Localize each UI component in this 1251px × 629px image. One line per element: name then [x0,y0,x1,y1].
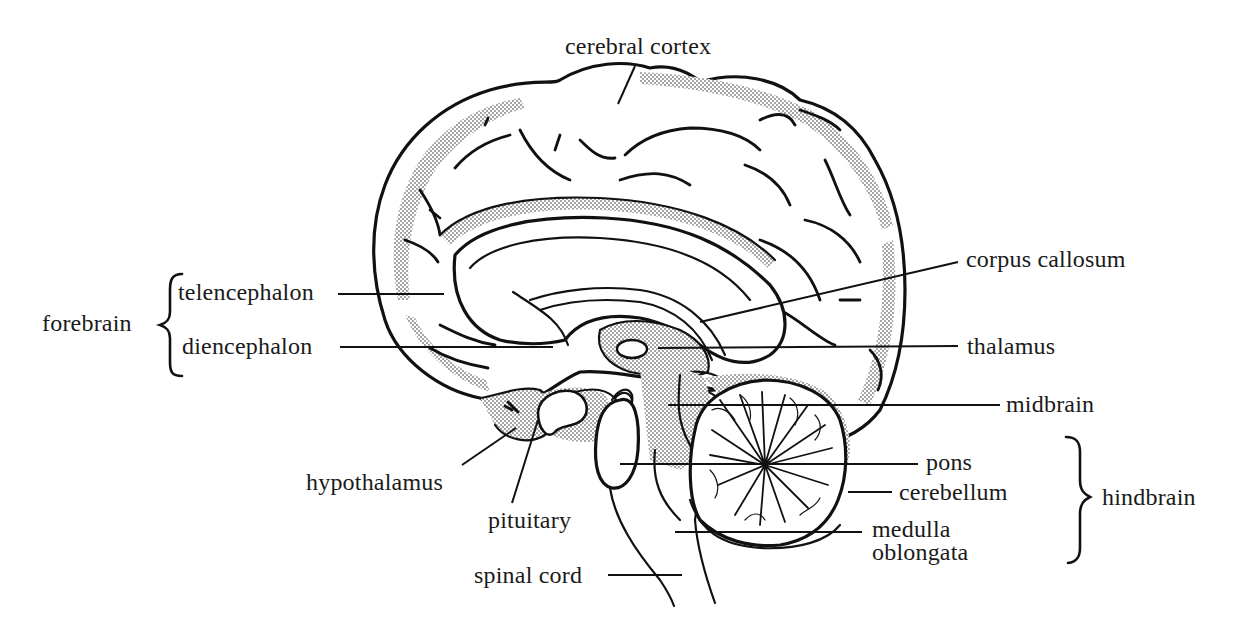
label-thalamus: thalamus [967,334,1055,358]
label-medulla-oblongata: medulla oblongata [872,518,968,564]
label-corpus-callosum: corpus callosum [966,247,1126,271]
label-cerebral-cortex: cerebral cortex [565,34,711,58]
cerebellum-structure [690,374,850,549]
hindbrain-brace [1066,437,1090,563]
label-cerebellum: cerebellum [899,480,1008,504]
leader-hypothalamus [462,428,516,465]
group-label-forebrain: forebrain [42,311,132,335]
label-spinal-cord: spinal cord [474,563,582,587]
label-midbrain: midbrain [1006,392,1094,416]
brain-diagram: cerebral cortex corpus callosum thalamus… [0,0,1251,629]
label-hypothalamus: hypothalamus [306,470,443,494]
label-pituitary: pituitary [488,508,571,532]
label-medulla-line1: medulla [872,518,968,541]
brain-illustration [0,0,1251,629]
label-medulla-line2: oblongata [872,541,968,564]
label-telencephalon: telencephalon [178,280,314,304]
label-pons: pons [926,450,972,474]
group-label-hindbrain: hindbrain [1102,485,1196,509]
label-diencephalon: diencephalon [182,334,312,358]
